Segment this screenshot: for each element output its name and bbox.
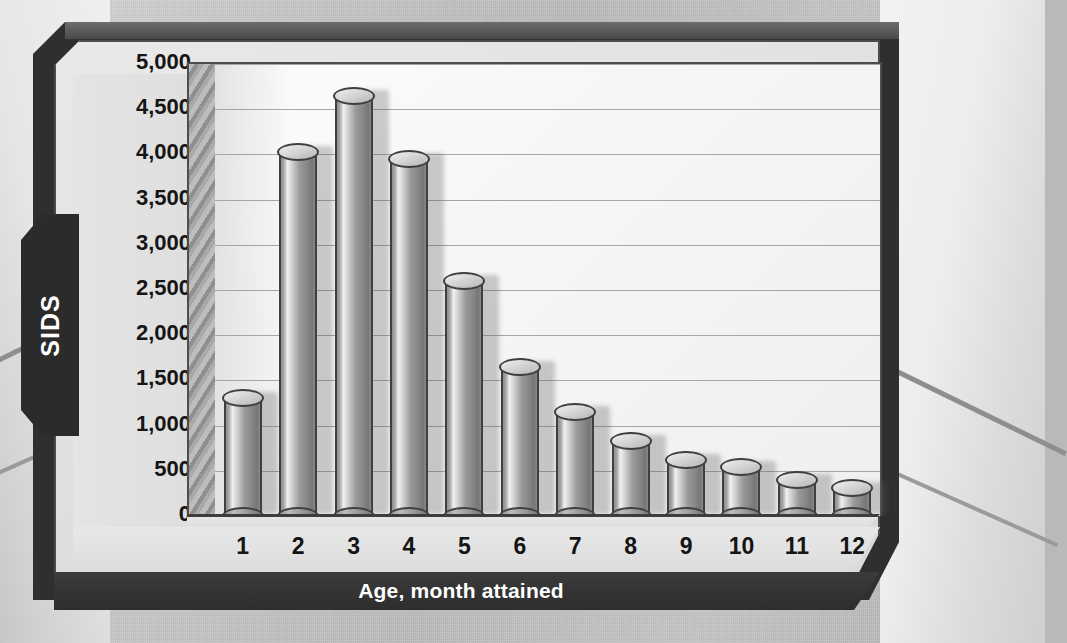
y-axis-tick-label: 2,500 [136,275,191,301]
bar-6[interactable] [501,367,539,516]
y-axis-label-panel: 5,0004,5004,0003,5003,0002,5002,0001,500… [73,74,201,544]
bar-cylinder-top-ellipse [443,272,485,290]
bar-cylinder-top-ellipse [277,143,319,161]
chart-container: 5,0004,5004,0003,5003,0002,5002,0001,500… [33,22,899,600]
x-axis-tick-strip: 123456789101112 [73,527,880,572]
x-axis-tick-label-2: 2 [270,533,325,560]
background-right-wall [880,0,1045,643]
bar-cylinder-body [335,96,373,516]
bar-cylinder-body [390,159,428,516]
bar-11[interactable] [778,480,816,516]
bar-cylinder-top-ellipse [610,432,652,450]
x-axis-tick-label-1: 1 [215,533,270,560]
x-axis-tick-label-10: 10 [714,533,769,560]
bar-cylinder-top-ellipse [388,150,430,168]
background-diagonal-line-right-2 [892,470,1058,547]
y-axis-tick-label: 3,000 [136,230,191,256]
y-axis-tick-label: 1,000 [136,411,191,437]
chart-3d-top-edge [65,22,899,39]
y-axis-tick-label: 4,000 [136,139,191,165]
y-axis-tick-label: 5,000 [136,49,191,75]
x-axis-title-band: Age, month attained [54,572,880,610]
bar-8[interactable] [612,441,650,516]
bar-9[interactable] [667,460,705,516]
bar-1[interactable] [224,398,262,516]
bar-cylinder-body [612,441,650,516]
y-axis-tick-label: 1,500 [136,365,191,391]
bar-7[interactable] [556,412,594,516]
bar-4[interactable] [390,159,428,516]
bar-10[interactable] [722,467,760,516]
bar-cylinder-body [556,412,594,516]
bar-2[interactable] [279,152,317,516]
y-axis-tick-label: 3,500 [136,185,191,211]
gridline [215,64,880,65]
x-axis-tick-label-4: 4 [381,533,436,560]
plot-area [215,62,882,516]
bar-cylinder-top-ellipse [831,479,873,497]
bar-cylinder-top-ellipse [333,87,375,105]
x-axis-tick-label-6: 6 [492,533,547,560]
y-axis-tick-label: 4,500 [136,94,191,120]
y-axis-tick-label: 500 [154,456,191,482]
x-axis-tick-label-3: 3 [326,533,381,560]
bar-cylinder-top-ellipse [665,451,707,469]
background-diagonal-line-right-1 [894,368,1067,456]
bar-5[interactable] [445,281,483,516]
gridline [215,109,880,110]
x-axis-tick-label-9: 9 [658,533,713,560]
x-axis-tick-label-7: 7 [548,533,603,560]
x-axis-tick-label-11: 11 [769,533,824,560]
y-axis-tick-label: 2,000 [136,320,191,346]
bar-cylinder-body [445,281,483,516]
y-axis-title: SIDS [36,294,65,356]
bar-cylinder-body [501,367,539,516]
x-axis-tick-label-8: 8 [603,533,658,560]
bar-3[interactable] [335,96,373,516]
bar-cylinder-body [224,398,262,516]
x-axis-tick-label-5: 5 [437,533,492,560]
bar-cylinder-top-ellipse [554,403,596,421]
x-axis-title: Age, month attained [358,579,564,603]
bar-cylinder-top-ellipse [776,471,818,489]
bar-12[interactable] [833,488,871,516]
bar-cylinder-top-ellipse [499,358,541,376]
bar-cylinder-body [279,152,317,516]
y-axis-title-tab: SIDS [21,214,79,436]
